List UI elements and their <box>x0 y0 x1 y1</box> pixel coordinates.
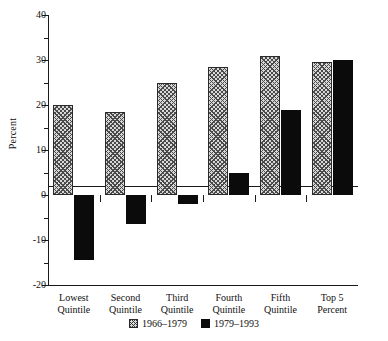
plot-area: 403020100-10-20 <box>48 15 358 285</box>
bar <box>260 56 280 196</box>
y-tick-label: -10 <box>6 235 46 245</box>
y-tick-label: 10 <box>6 145 46 155</box>
legend-item-1979-1993: 1979–1993 <box>201 318 259 329</box>
y-tick-minor <box>44 263 49 264</box>
bar <box>105 112 125 195</box>
y-tick-label: 40 <box>6 10 46 20</box>
bar <box>53 105 73 195</box>
bar <box>229 173 249 196</box>
y-tick-label: 0 <box>6 190 46 200</box>
x-tick <box>151 195 152 202</box>
bar <box>126 195 146 224</box>
y-tick-minor <box>44 173 49 174</box>
y-tick-minor <box>44 128 49 129</box>
legend-swatch-solid-icon <box>201 319 210 328</box>
x-category-label: Top 5Percent <box>300 292 364 315</box>
plot-bottom-frame <box>48 285 358 286</box>
y-tick-minor <box>44 38 49 39</box>
x-tick <box>100 195 101 202</box>
x-tick <box>255 195 256 202</box>
x-tick <box>203 195 204 202</box>
y-tick-label: 20 <box>6 100 46 110</box>
y-tick-label: 30 <box>6 55 46 65</box>
y-tick-minor <box>44 83 49 84</box>
bar <box>208 67 228 195</box>
y-tick-label: -20 <box>6 280 46 290</box>
chart-legend: 1966–1979 1979–1993 <box>0 318 388 329</box>
y-tick-minor <box>44 218 49 219</box>
bar <box>178 195 198 204</box>
bar-chart-figure: Percent 403020100-10-20 LowestQuintileSe… <box>0 0 388 341</box>
x-tick <box>306 195 307 202</box>
legend-item-1966-1979: 1966–1979 <box>129 318 187 329</box>
bar <box>312 62 332 195</box>
legend-label-1966-1979: 1966–1979 <box>142 318 187 329</box>
bar <box>157 83 177 196</box>
bar <box>281 110 301 196</box>
legend-label-1979-1993: 1979–1993 <box>214 318 259 329</box>
bar <box>333 60 353 195</box>
legend-swatch-hatched-icon <box>129 319 138 328</box>
bar <box>74 195 94 260</box>
